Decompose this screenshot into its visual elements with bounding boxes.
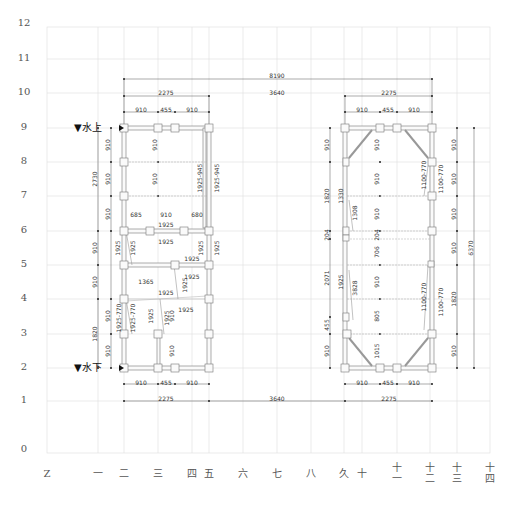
x-label: 八	[299, 468, 323, 479]
dim: 1925	[114, 240, 121, 255]
x-label: 一	[86, 468, 110, 479]
dim: 910	[151, 139, 158, 150]
dim: 910	[373, 276, 380, 287]
y-label: 3	[14, 327, 34, 338]
dim: 910	[104, 173, 111, 184]
dim: 1925	[184, 255, 199, 262]
dim: 455	[323, 319, 330, 330]
dim-middle-gap: 3640	[269, 89, 284, 96]
x-label: 七	[265, 468, 289, 479]
dim: 1925	[197, 240, 204, 255]
dim: 805	[373, 310, 380, 321]
dim: 910	[373, 173, 380, 184]
dim: 910	[450, 345, 457, 356]
dim-overall: 8190	[269, 72, 284, 79]
dim: 910	[135, 106, 146, 113]
x-label: 二	[112, 468, 136, 479]
dim: 910	[408, 379, 419, 386]
dim: 3828	[351, 280, 358, 295]
dim: 910	[356, 379, 367, 386]
dim: 1100-770	[437, 288, 444, 317]
y-label: 11	[14, 52, 34, 63]
y-label: 7	[14, 189, 34, 200]
dim: 910	[91, 242, 98, 253]
x-label: Z	[35, 468, 59, 479]
dim: 910	[186, 379, 197, 386]
dim: 910	[151, 173, 158, 184]
dim: 910	[408, 106, 419, 113]
dim-left-span: 2275	[158, 395, 173, 402]
dim: 910	[160, 211, 171, 218]
dim: 1925	[129, 240, 136, 255]
dim: 1925	[147, 308, 154, 323]
dim: 1015	[373, 343, 380, 358]
x-label: 十三	[452, 462, 462, 484]
dim: 1925-770	[129, 304, 136, 333]
dim: 1925	[213, 240, 220, 255]
dim-left-span: 2275	[158, 89, 173, 96]
dim: 910	[450, 242, 457, 253]
dim: 1365	[138, 278, 153, 285]
dim: 1100-770	[420, 161, 427, 190]
x-label: 十四	[485, 462, 495, 484]
dim: 910	[104, 208, 111, 219]
dim: 910	[104, 310, 111, 321]
y-label: 4	[14, 292, 34, 303]
dim: 1925	[163, 310, 170, 325]
dim: 1925	[178, 306, 193, 313]
y-label: 10	[14, 86, 34, 97]
x-label: 六	[231, 468, 255, 479]
dim: 455	[160, 106, 171, 113]
dim: 685	[130, 211, 141, 218]
dim: 204	[323, 229, 330, 240]
x-label: 十一	[392, 462, 402, 484]
dim-middle-gap: 3640	[269, 395, 284, 402]
dim: 1925-770	[115, 304, 122, 333]
x-label: 十二	[425, 462, 435, 484]
dim: 1100-770	[420, 283, 427, 312]
x-label: 五	[197, 468, 221, 479]
dim-right-span: 2275	[381, 395, 396, 402]
dim: 455	[160, 379, 171, 386]
downstream-marker: ▼水下	[74, 359, 102, 374]
y-label: 9	[14, 121, 34, 132]
y-label: 2	[14, 361, 34, 372]
x-label: 十	[350, 468, 374, 479]
dim: 910	[323, 139, 330, 150]
dim: 1925	[158, 221, 173, 228]
y-label: 5	[14, 258, 34, 269]
dim: 910	[135, 379, 146, 386]
dim: 1925	[158, 289, 173, 296]
dim: 910	[450, 139, 457, 150]
dim: 910	[186, 106, 197, 113]
dim: 910	[356, 106, 367, 113]
dim: 910	[168, 345, 175, 356]
dim: 1330	[337, 188, 344, 203]
dim: 680	[191, 211, 202, 218]
dim: 706	[373, 246, 380, 257]
dim: 910	[91, 276, 98, 287]
dim: 2071	[323, 270, 330, 285]
x-label: 三	[146, 468, 170, 479]
dim: 455	[382, 379, 393, 386]
dim-right-span: 2275	[381, 89, 396, 96]
dim: 910	[323, 345, 330, 356]
dim: 2730	[91, 171, 98, 186]
dim: 1820	[450, 291, 457, 306]
y-label: 12	[14, 17, 34, 28]
dim: 1308	[351, 205, 358, 220]
dim: 1820	[91, 326, 98, 341]
dim: 910	[450, 208, 457, 219]
y-label: 8	[14, 155, 34, 166]
drawing-canvas	[0, 0, 508, 505]
dim: 1925-945	[196, 164, 203, 193]
dim: 1925	[337, 274, 344, 289]
dim: 455	[382, 106, 393, 113]
dim: 910	[104, 345, 111, 356]
upstream-marker: ▼水上	[74, 119, 102, 134]
dim: 910	[450, 173, 457, 184]
dim: 1925	[158, 238, 173, 245]
dim: 910	[373, 139, 380, 150]
dim: 204	[373, 229, 380, 240]
dim: 910	[104, 139, 111, 150]
